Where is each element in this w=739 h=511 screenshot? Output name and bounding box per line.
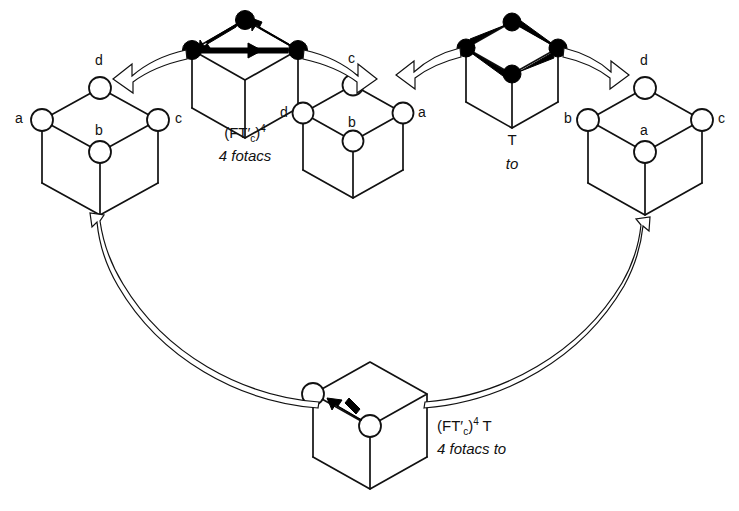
ft-symbol: FT <box>442 417 460 434</box>
node-bottom-filled <box>503 65 521 83</box>
permutation-arrow-composite <box>327 398 362 420</box>
node-top <box>634 77 656 99</box>
node-center <box>634 141 656 163</box>
permutation-arrows-fotacs <box>183 11 308 60</box>
result-cube-label-left: b <box>564 110 572 126</box>
diagram-svg: .cl{fill:none;stroke:#111;stroke-width:1… <box>0 0 739 511</box>
node-top-filled <box>236 11 255 30</box>
arrow-composite-to-result <box>424 217 650 408</box>
operator-cube-to <box>457 13 567 128</box>
ft-symbol: FT <box>229 124 247 141</box>
result-cube-label-top: d <box>640 52 648 68</box>
node-right <box>691 109 713 131</box>
operator-to-caption-line2: to <box>475 154 549 174</box>
node-center <box>89 141 111 163</box>
operator-to-caption: T to <box>475 130 549 175</box>
composite-caption: (FT′c)4 T 4 fotacs to <box>437 415 587 459</box>
node-right <box>393 103 414 124</box>
composite-caption-line2: 4 fotacs to <box>437 439 587 459</box>
operator-fotacs-caption-line2: 4 fotacs <box>180 146 310 166</box>
superscript-4: 4 <box>260 123 266 134</box>
source-cube <box>31 77 169 215</box>
arrow-operator-to-to-result <box>563 48 629 89</box>
permutation-arrows-to <box>457 13 567 83</box>
node-center <box>343 131 364 152</box>
intermediate-cube-label-right: a <box>418 104 426 120</box>
arrow-composite-to-source <box>90 213 319 408</box>
composite-caption-line1: (FT′c)4 T <box>437 415 587 439</box>
node-left <box>293 103 314 124</box>
operator-cube-fotacs <box>183 11 308 139</box>
intermediate-cube <box>293 75 414 199</box>
arrow-operator-fotacs-to-middle <box>303 50 377 93</box>
operator-fotacs-caption: (FT′c)4 4 fotacs <box>180 122 310 166</box>
node-top <box>89 77 111 99</box>
intermediate-cube-label-center: b <box>348 114 356 130</box>
arrow-operator-fotacs-to-source <box>113 50 187 93</box>
source-cube-label-center: b <box>95 122 103 138</box>
result-cube-label-right: c <box>718 110 725 126</box>
result-cube-label-center: a <box>640 122 648 138</box>
result-cube <box>577 77 713 215</box>
diagram-canvas: .cl{fill:none;stroke:#111;stroke-width:1… <box>0 0 739 511</box>
composite-operator-cube <box>302 362 427 489</box>
source-cube-label-top: d <box>95 52 103 68</box>
tail-T: T <box>479 417 492 434</box>
arrow-operator-to-to-middle <box>396 48 461 89</box>
source-cube-label-left: a <box>15 110 23 126</box>
operator-fotacs-caption-line1: (FT′c)4 <box>180 122 310 146</box>
intermediate-cube-label-left: d <box>280 104 288 120</box>
node-top-filled <box>503 13 521 31</box>
node-left <box>577 109 599 131</box>
intermediate-cube-label-top: c <box>348 50 355 66</box>
operator-to-caption-line1: T <box>475 130 549 150</box>
node-right <box>147 109 169 131</box>
node-left <box>31 109 53 131</box>
node-center <box>359 415 381 437</box>
